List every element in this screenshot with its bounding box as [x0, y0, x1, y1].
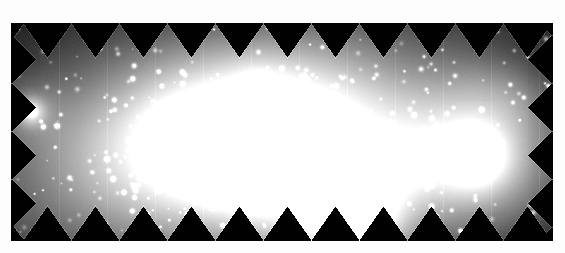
- astronomical-mosaic-image: [11, 23, 553, 241]
- corner-dot-mark: .: [557, 12, 559, 19]
- sky-render-canvas: [11, 23, 553, 241]
- screenshot-root: .: [0, 0, 565, 253]
